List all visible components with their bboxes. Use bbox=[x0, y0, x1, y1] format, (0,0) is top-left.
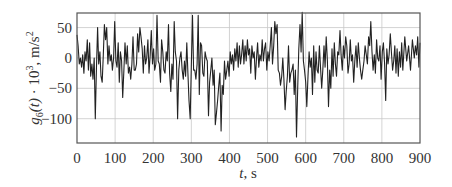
line-chart: 0100200300400500600700800900 500−50−100 … bbox=[0, 0, 452, 187]
x-tick-label: 500 bbox=[256, 150, 279, 166]
x-tick-label: 400 bbox=[218, 150, 241, 166]
grid-lines bbox=[77, 13, 420, 143]
x-tick-label: 700 bbox=[333, 150, 356, 166]
x-tick-label: 600 bbox=[294, 150, 317, 166]
x-tick-label: 800 bbox=[371, 150, 394, 166]
x-axis-title: t, s bbox=[239, 165, 257, 181]
x-tick-label: 100 bbox=[104, 150, 127, 166]
y-tick-label: 0 bbox=[65, 50, 73, 66]
series-g6 bbox=[77, 12, 420, 136]
x-tick-label: 200 bbox=[142, 150, 165, 166]
y-tick-label: −100 bbox=[41, 111, 72, 127]
plot-frame bbox=[77, 13, 420, 143]
y-tick-label: −50 bbox=[49, 80, 72, 96]
x-tick-label: 0 bbox=[73, 150, 81, 166]
y-tick-label: 50 bbox=[57, 20, 72, 36]
signal-line bbox=[77, 12, 420, 136]
x-tick-label: 300 bbox=[180, 150, 203, 166]
y-tick-labels: 500−50−100 bbox=[41, 20, 72, 127]
x-tick-label: 900 bbox=[409, 150, 432, 166]
y-axis-title: g6(t) · 103, m/s2 bbox=[24, 31, 45, 124]
x-tick-labels: 0100200300400500600700800900 bbox=[73, 150, 431, 166]
